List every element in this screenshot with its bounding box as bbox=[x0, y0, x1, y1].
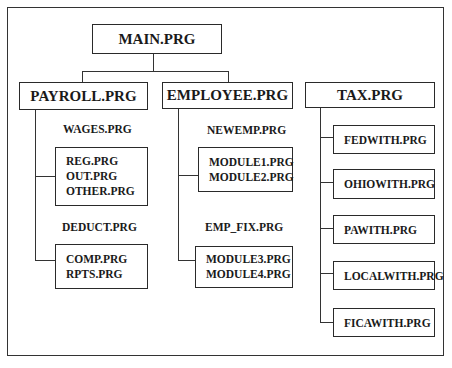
node-ohiowith-label: OHIOWITH.PRG bbox=[344, 178, 435, 190]
connector-to-employee bbox=[228, 71, 229, 82]
node-payroll-label: PAYROLL.PRG bbox=[30, 88, 136, 105]
node-fedwith: FEDWITH.PRG bbox=[333, 125, 435, 154]
connector-employee-trunk bbox=[178, 109, 179, 261]
empfix-items-box: MODULE3.PRG MODULE4.PRG bbox=[195, 246, 293, 288]
node-ficawith-label: FICAWITH.PRG bbox=[344, 317, 431, 329]
node-employee-label: EMPLOYEE.PRG bbox=[167, 87, 288, 104]
connector-to-deduct-box bbox=[35, 260, 55, 261]
newemp-items-box: MODULE1.PRG MODULE2.PRG bbox=[198, 147, 293, 192]
group-wages-label: WAGES.PRG bbox=[63, 123, 132, 135]
node-main: MAIN.PRG bbox=[92, 24, 222, 54]
item-reg: REG.PRG bbox=[66, 154, 118, 169]
item-module2: MODULE2.PRG bbox=[209, 170, 294, 185]
node-localwith-label: LOCALWITH.PRG bbox=[344, 270, 444, 282]
wages-items-box: REG.PRG OUT.PRG OTHER.PRG bbox=[55, 147, 148, 206]
node-payroll: PAYROLL.PRG bbox=[19, 82, 148, 110]
deduct-items-box: COMP.PRG RPTS.PRG bbox=[55, 244, 148, 289]
node-employee: EMPLOYEE.PRG bbox=[162, 82, 293, 109]
item-module3: MODULE3.PRG bbox=[206, 252, 291, 267]
node-pawith-label: PAWITH.PRG bbox=[344, 224, 417, 236]
connector-to-ohiowith bbox=[320, 182, 333, 183]
node-fedwith-label: FEDWITH.PRG bbox=[344, 134, 427, 146]
connector-to-payroll bbox=[82, 71, 83, 82]
node-ohiowith: OHIOWITH.PRG bbox=[333, 169, 435, 199]
group-deduct-label: DEDUCT.PRG bbox=[62, 221, 137, 233]
node-ficawith: FICAWITH.PRG bbox=[333, 308, 435, 337]
connector-to-newemp-box bbox=[178, 175, 198, 176]
connector-to-ficawith bbox=[320, 322, 333, 323]
group-newemp-label: NEWEMP.PRG bbox=[207, 124, 286, 136]
node-main-label: MAIN.PRG bbox=[118, 31, 195, 48]
node-tax-label: TAX.PRG bbox=[337, 87, 403, 104]
group-empfix-label: EMP_FIX.PRG bbox=[205, 221, 283, 233]
connector-tax-trunk bbox=[320, 108, 321, 322]
item-out: OUT.PRG bbox=[66, 169, 117, 184]
item-module4: MODULE4.PRG bbox=[206, 267, 291, 282]
item-module1: MODULE1.PRG bbox=[209, 155, 294, 170]
connector-to-pawith bbox=[320, 228, 333, 229]
item-other: OTHER.PRG bbox=[66, 184, 135, 199]
connector-main-down bbox=[153, 54, 154, 71]
item-rpts: RPTS.PRG bbox=[66, 267, 123, 282]
connector-main-bar bbox=[82, 71, 229, 72]
node-tax: TAX.PRG bbox=[305, 82, 435, 108]
connector-to-localwith bbox=[320, 273, 333, 274]
connector-to-empfix-box bbox=[178, 260, 195, 261]
connector-payroll-trunk bbox=[35, 110, 36, 261]
node-localwith: LOCALWITH.PRG bbox=[333, 261, 435, 290]
node-pawith: PAWITH.PRG bbox=[333, 215, 435, 244]
item-comp: COMP.PRG bbox=[66, 252, 127, 267]
connector-to-fedwith bbox=[320, 137, 333, 138]
connector-to-wages-box bbox=[35, 176, 55, 177]
